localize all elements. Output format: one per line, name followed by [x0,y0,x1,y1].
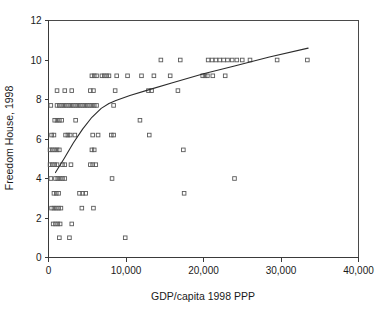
x-tick-label: 0 [46,265,52,276]
y-tick-label: 2 [36,213,42,224]
y-tick-label: 10 [30,55,42,66]
y-tick-label: 4 [36,173,42,184]
y-axis-label: Freedom House, 1998 [3,86,15,191]
y-tick-label: 12 [30,15,42,26]
x-tick-label: 40,000 [343,265,374,276]
x-tick-label: 30,000 [266,265,297,276]
y-tick-label: 8 [36,94,42,105]
y-tick-label: 6 [36,134,42,145]
scatter-plot-figure: 010,00020,00030,00040,000 024681012 GDP/… [0,0,392,311]
y-tick-label: 0 [36,252,42,263]
x-axis-label: GDP/capita 1998 PPP [151,290,255,302]
x-tick-label: 10,000 [111,265,142,276]
chart-canvas: 010,00020,00030,00040,000 024681012 GDP/… [0,0,392,311]
x-tick-label: 20,000 [188,265,219,276]
